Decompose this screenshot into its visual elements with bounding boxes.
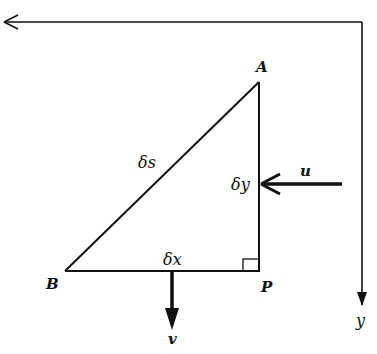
vertex-label-b: B [45,275,59,293]
diagram-canvas: A B P δs δy δx u v y [0,0,377,354]
side-label-dy: δy [231,175,251,194]
diagram-svg: A B P δs δy δx u v y [0,0,377,354]
right-angle-marker [243,259,259,271]
side-label-ds: δs [138,153,156,172]
axis-label-y: y [355,311,366,330]
v-velocity-arrow [165,272,179,330]
arrow-down-icon [357,292,367,306]
velocity-label-v: v [168,330,177,348]
side-label-dx: δx [163,250,182,269]
triangle [65,82,259,272]
velocity-label-u: u [300,162,311,180]
vertex-label-a: A [254,58,268,76]
arrow-down-icon [165,308,179,330]
vertex-label-p: P [260,278,273,296]
x-axis [4,15,362,29]
y-axis [357,22,367,306]
